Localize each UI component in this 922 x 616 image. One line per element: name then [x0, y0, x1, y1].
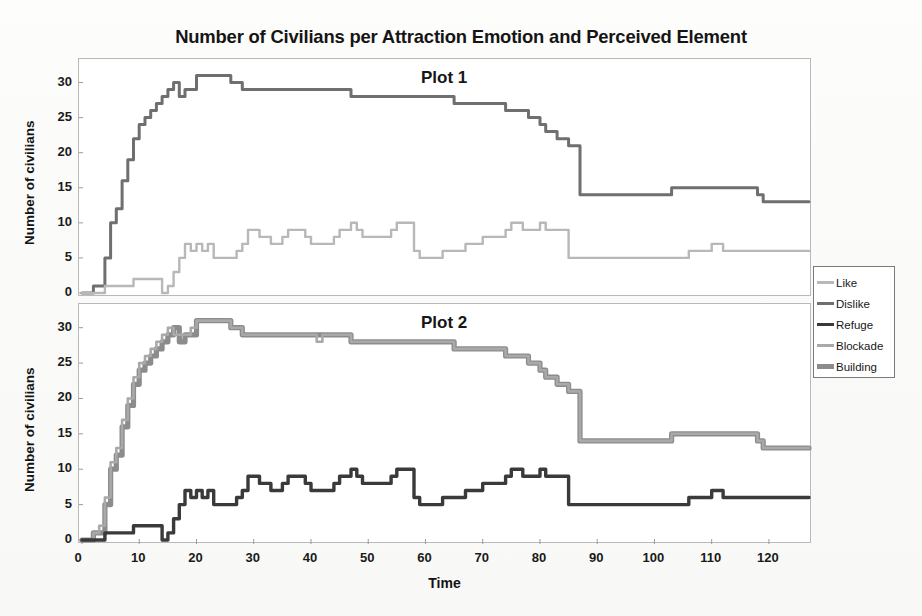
x-tick-label: 30 — [235, 550, 271, 565]
x-tick-label: 20 — [177, 550, 213, 565]
y-tick-label: 25 — [32, 109, 72, 124]
y-tick-label: 20 — [32, 389, 72, 404]
plot-2-canvas — [79, 304, 812, 544]
legend-item-blockade[interactable]: Blockade — [817, 335, 894, 356]
y-tick-label: 10 — [32, 214, 72, 229]
plot-1-canvas — [79, 59, 812, 297]
y-tick-label: 15 — [32, 179, 72, 194]
series-line-refuge — [82, 469, 809, 540]
legend-label: Refuge — [836, 319, 873, 331]
page-title: Number of Civilians per Attraction Emoti… — [14, 26, 908, 48]
y-tick-label: 15 — [32, 425, 72, 440]
x-tick-label: 110 — [693, 550, 729, 565]
legend-swatch-icon — [817, 344, 834, 347]
legend-label: Like — [836, 277, 857, 289]
y-tick-label: 20 — [32, 144, 72, 159]
x-tick-label-zero: 0 — [60, 550, 96, 565]
x-tick-label: 50 — [349, 550, 385, 565]
plot-panel-2 — [78, 303, 811, 543]
x-tick-label: 70 — [464, 550, 500, 565]
y-tick-label: 5 — [32, 249, 72, 264]
y-tick-label: 10 — [32, 460, 72, 475]
y-tick-label: 5 — [32, 496, 72, 511]
series-line-dislike — [82, 76, 809, 294]
y-tick-label: 25 — [32, 354, 72, 369]
legend-swatch-icon — [817, 364, 834, 369]
legend-label: Dislike — [836, 298, 870, 310]
legend-item-refuge[interactable]: Refuge — [817, 314, 894, 335]
x-tick-label: 10 — [120, 550, 156, 565]
legend-swatch-icon — [817, 302, 834, 305]
x-tick-label: 120 — [750, 550, 786, 565]
legend-item-dislike[interactable]: Dislike — [817, 293, 894, 314]
y-tick-label: 30 — [32, 74, 72, 89]
legend-item-building[interactable]: Building — [817, 356, 894, 377]
plot-2-label: Plot 2 — [421, 313, 467, 333]
series-line-blockade — [82, 321, 809, 540]
y-tick-label: 0 — [32, 284, 72, 299]
legend-swatch-icon — [817, 323, 834, 326]
legend-label: Building — [836, 361, 877, 373]
legend-item-like[interactable]: Like — [817, 272, 894, 293]
series-line-building — [82, 321, 809, 540]
legend: LikeDislikeRefugeBlockadeBuilding — [813, 266, 895, 378]
x-axis-title: Time — [78, 575, 811, 591]
legend-label: Blockade — [836, 340, 883, 352]
y-tick-label: 0 — [32, 531, 72, 546]
x-tick-label: 90 — [578, 550, 614, 565]
plot-1-label: Plot 1 — [421, 68, 467, 88]
y-tick-label: 30 — [32, 319, 72, 334]
x-tick-label: 100 — [635, 550, 671, 565]
x-tick-label: 60 — [406, 550, 442, 565]
plot-panel-1 — [78, 58, 811, 296]
legend-swatch-icon — [817, 281, 834, 283]
series-line-like — [82, 223, 809, 293]
x-tick-label: 40 — [292, 550, 328, 565]
x-tick-label: 80 — [521, 550, 557, 565]
